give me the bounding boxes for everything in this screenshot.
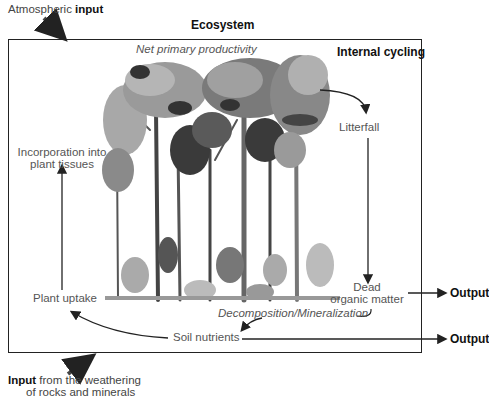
weathering-line-2: of rocks and minerals xyxy=(8,386,141,398)
forest-illustration-icon xyxy=(102,55,340,300)
dead-organic-matter-label: Dead organic matter xyxy=(322,281,412,305)
output-label-soil: Output xyxy=(450,332,489,346)
weathering-input-arrow xyxy=(68,358,90,374)
weathering-suffix: from the weathering xyxy=(36,374,141,386)
soil-nutrients-label: Soil nutrients xyxy=(173,331,239,343)
atmospheric-input-arrow xyxy=(44,18,62,36)
atmospheric-prefix: Atmospheric xyxy=(8,3,75,15)
incorporation-line-2: plant tissues xyxy=(12,158,112,170)
npp-label: Net primary productivity xyxy=(136,43,257,55)
litterfall-label: Litterfall xyxy=(339,121,379,133)
dead-line-1: Dead xyxy=(322,281,412,293)
decomposition-arrow xyxy=(242,318,262,330)
atmospheric-input-label: Atmospheric input xyxy=(8,3,103,15)
incorporation-line-1: Incorporation into xyxy=(12,146,112,158)
internal-cycling-label: Internal cycling xyxy=(337,45,425,59)
decomposition-label: Decomposition/Mineralization xyxy=(218,307,368,319)
dead-line-2: organic matter xyxy=(322,293,412,305)
weathering-bold: Input xyxy=(8,374,36,386)
output-label-organic: Output xyxy=(450,286,489,300)
ecosystem-title: Ecosystem xyxy=(191,18,254,32)
incorporation-label: Incorporation into plant tissues xyxy=(12,146,112,170)
weathering-input-label: Input from the weathering of rocks and m… xyxy=(8,374,141,398)
to-plant-uptake-arrow xyxy=(72,312,168,338)
plant-uptake-label: Plant uptake xyxy=(33,292,97,304)
atmospheric-bold: input xyxy=(75,3,103,15)
